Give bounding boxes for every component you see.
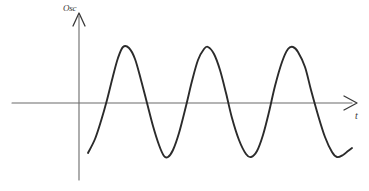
y-axis-label: Osc bbox=[63, 3, 76, 13]
oscillation-curve bbox=[88, 46, 352, 158]
x-axis-label: t bbox=[355, 110, 358, 121]
oscillation-figure: Osc t bbox=[0, 0, 369, 191]
waveform-canvas: Osc t bbox=[0, 0, 369, 191]
